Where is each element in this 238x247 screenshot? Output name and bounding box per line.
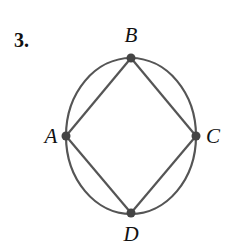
vertex-label-D: D [122,222,138,246]
vertex-label-A: A [43,124,58,148]
vertex-label-B: B [125,23,138,47]
edge-CD [131,136,196,213]
vertex-D [127,209,136,218]
edge-DA [66,136,131,213]
problem-number: 3. [14,29,29,51]
vertex-B [127,54,136,63]
graph-diagram: 3. BACD [0,0,238,247]
vertices [62,54,201,218]
vertex-C [192,132,201,141]
circumscribing-ellipse [66,58,196,214]
vertex-label-C: C [206,124,221,148]
vertex-A [62,132,71,141]
